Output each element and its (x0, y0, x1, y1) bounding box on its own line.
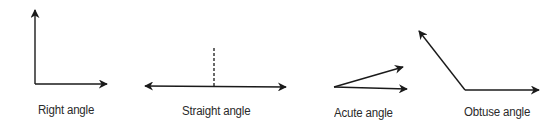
acute-angle-label: Acute angle (334, 106, 393, 120)
straight-angle-figure (145, 48, 286, 87)
obtuse-angle-label: Obtuse angle (464, 105, 530, 119)
acute-angle-figure (334, 67, 407, 89)
acute-angle-lower-ray (334, 87, 407, 89)
obtuse-angle-figure (419, 31, 539, 90)
obtuse-angle-diagonal-ray (419, 31, 465, 90)
acute-angle-upper-ray (334, 67, 403, 87)
straight-angle-line (145, 86, 286, 87)
straight-angle-label: Straight angle (182, 104, 250, 118)
right-angle-figure (35, 10, 107, 84)
right-angle-label: Right angle (38, 103, 94, 117)
